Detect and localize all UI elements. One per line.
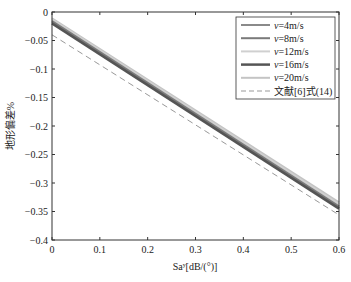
x-tick-label: 0.3 [189, 244, 202, 255]
legend-label: v=4m/s [274, 20, 304, 31]
y-tick-label: −0.15 [25, 92, 48, 103]
chart: 00.10.20.30.40.50.6 0−0.05−0.1−0.15−0.2−… [0, 0, 351, 282]
y-tick-label: −0.3 [30, 178, 48, 189]
x-axis-label: Saʸ[dB/(°)] [173, 261, 218, 273]
y-tick-label: −0.05 [25, 35, 48, 46]
y-tick-label: −0.2 [30, 121, 48, 132]
legend-label: 文献[6]式(14) [274, 85, 332, 98]
legend: v=4m/sv=8m/sv=12m/sv=16m/sv=20m/s文献[6]式(… [236, 17, 335, 99]
y-axis-label: 地形偏差% [4, 102, 16, 150]
x-tick-label: 0.5 [285, 244, 298, 255]
x-tick-label: 0.2 [141, 244, 154, 255]
y-tick-label: −0.35 [25, 206, 48, 217]
legend-label: v=16m/s [274, 59, 309, 70]
y-tick-label: −0.25 [25, 149, 48, 160]
x-tick-label: 0.6 [333, 244, 346, 255]
y-tick-label: 0 [43, 7, 48, 18]
legend-label: v=20m/s [274, 72, 309, 83]
x-tick-label: 0.4 [237, 244, 250, 255]
x-tick-label: 0 [50, 244, 55, 255]
x-tick-label: 0.1 [94, 244, 107, 255]
y-tick-label: −0.1 [30, 64, 48, 75]
legend-label: v=12m/s [274, 46, 309, 57]
y-tick-label: −0.4 [30, 235, 48, 246]
legend-label: v=8m/s [274, 33, 304, 44]
